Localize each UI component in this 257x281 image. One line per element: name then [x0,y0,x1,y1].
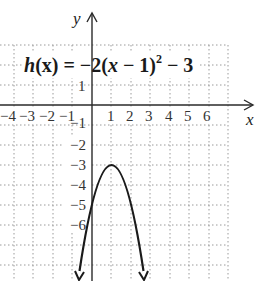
y-tick: −1 [70,115,86,131]
x-tick: 1 [107,108,115,124]
x-tick: 5 [184,108,192,124]
y-tick: −2 [70,137,86,153]
x-axis-label: x [245,110,254,129]
x-tick: 4 [165,108,173,124]
curve-arrow-right-icon [139,271,148,280]
x-tick: −4 [0,108,16,124]
title-rest: − 1) [118,54,156,77]
y-tick: −5 [70,197,86,213]
y-tick: 1 [78,78,86,94]
title-arg: (x) = −2( [35,54,108,77]
title-x: x [107,54,118,76]
title-tail: − 3 [162,54,193,76]
x-tick: 2 [126,108,134,124]
y-axis-label: y [71,9,81,28]
title-fn: h [24,54,35,76]
curve-arrow-left-icon [75,271,84,280]
y-tick: −6 [70,217,86,233]
grid [0,45,228,281]
x-tick: −2 [39,108,55,124]
x-tick: 6 [203,108,211,124]
function-graph: −4 −3 −2 −1 1 2 3 4 5 6 1 −1 −2 −3 −4 −5… [0,0,257,281]
y-tick: −3 [70,157,86,173]
function-title: h(x) = −2(x − 1)2 − 3 [24,52,193,77]
x-tick: 3 [145,108,153,124]
x-tick: −3 [19,108,35,124]
y-tick: −4 [70,177,86,193]
